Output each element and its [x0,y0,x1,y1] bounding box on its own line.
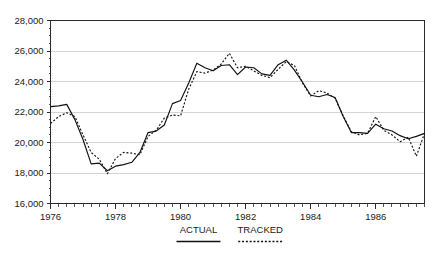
x-axis-label: 1982 [235,211,256,222]
y-axis-label: 28,000 [14,15,43,26]
y-axis-label: 22,000 [14,106,43,117]
series-lines [51,53,425,173]
series-line-actual [51,60,425,171]
y-axis-ticks [47,21,51,204]
legend-label-tracked: TRACKED [238,224,284,235]
x-axis-tick-labels: 197619781980198219841986 [40,211,386,222]
x-axis-label: 1978 [105,211,126,222]
x-axis-label: 1980 [170,211,191,222]
line-chart: 16,00018,00020,00022,00024,00026,00028,0… [0,0,438,254]
y-axis-label: 20,000 [14,137,43,148]
x-axis-label: 1986 [365,211,386,222]
y-axis-label: 26,000 [14,45,43,56]
y-axis-label: 16,000 [14,198,43,209]
x-axis-label: 1976 [40,211,61,222]
x-axis-ticks [51,204,425,209]
gridlines-group [51,51,425,173]
y-axis-label: 18,000 [14,167,43,178]
chart-container: 16,00018,00020,00022,00024,00026,00028,0… [0,0,438,254]
series-line-tracked [51,53,425,173]
legend-label-actual: ACTUAL [180,224,217,235]
y-axis-label: 24,000 [14,76,43,87]
x-axis-label: 1984 [300,211,321,222]
chart-legend: ACTUALTRACKED [176,224,283,242]
y-axis-tick-labels: 16,00018,00020,00022,00024,00026,00028,0… [14,15,43,209]
